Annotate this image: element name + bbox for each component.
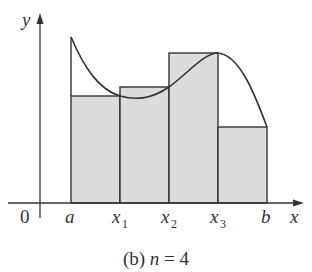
tick-label-x2: x — [160, 206, 170, 227]
tick-label-x1: x — [111, 206, 121, 227]
caption-variable: n — [150, 248, 160, 269]
caption-prefix: (b) — [123, 248, 150, 270]
riemann-sum-diagram: y 0 x a x 1 x 2 x 3 b (b) n = 4 — [0, 0, 312, 272]
rectangle-4 — [218, 127, 267, 203]
rectangle-3 — [169, 53, 218, 203]
rectangle-2 — [120, 87, 169, 203]
y-axis-label: y — [20, 9, 31, 30]
tick-label-a: a — [65, 206, 75, 227]
origin-label: 0 — [20, 206, 30, 227]
tick-label-x3-sub: 3 — [220, 217, 226, 231]
tick-label-b: b — [261, 206, 271, 227]
figure-caption: (b) n = 4 — [123, 248, 190, 270]
tick-label-x1-sub: 1 — [122, 217, 128, 231]
caption-value: = 4 — [159, 248, 189, 269]
rectangles — [71, 53, 267, 203]
x-axis-label: x — [289, 206, 299, 227]
tick-label-x3: x — [209, 206, 219, 227]
y-axis-arrow-icon — [37, 13, 44, 24]
rectangle-1 — [71, 96, 120, 203]
tick-label-x2-sub: 2 — [171, 217, 177, 231]
